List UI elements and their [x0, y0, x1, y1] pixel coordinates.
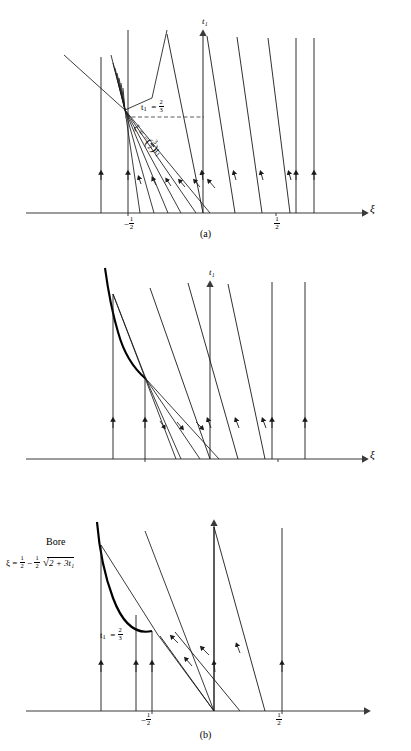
panel-a: t₁ ξ t1 = 23 ξ = −(32)t1 −12 12 (a) [0, 0, 411, 250]
t1-frac-den-a: 3 [159, 106, 164, 114]
characteristics-left-c [101, 545, 152, 711]
bore-curve-c [97, 522, 152, 632]
crossed-characteristics-a [111, 55, 125, 110]
converging-arrowheads-a [139, 178, 215, 188]
panel-a-caption: (a) [0, 228, 411, 239]
y-axis-label-b: t₁ [209, 268, 215, 277]
characteristics-right-a [167, 34, 314, 213]
t1-frac-num-a: 2 [159, 99, 164, 106]
x-axis-label-b: ξ [370, 449, 375, 460]
panel-c-plot [0, 500, 411, 751]
characteristics-left-b [113, 294, 145, 459]
t1-value-label-a: t1 = 23 [141, 99, 164, 114]
characteristics-absorbed-c [101, 531, 214, 711]
x-axis-label-a: ξ [370, 203, 375, 214]
characteristics-right-b [150, 282, 305, 459]
characteristics-absorbed-b [113, 294, 219, 459]
panel-c: t₁ ξ C Bore B A t1 = 12 −12 12 (c) [0, 500, 411, 751]
panel-b: t₁ ξ Bore ξ = 12 − 12 √2 + 3t₁ t1 = 23 −… [0, 250, 411, 500]
y-axis-label-a: t₁ [202, 17, 208, 26]
panel-b-plot [0, 250, 411, 500]
characteristics-left-a [101, 30, 128, 213]
right-arrowheads-c [172, 637, 282, 672]
panel-a-plot [0, 0, 411, 250]
